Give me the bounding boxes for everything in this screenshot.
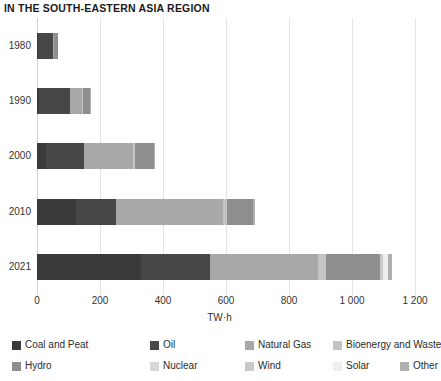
legend-item-bioenergy-and-waste[interactable]: Bioenergy and Waste (333, 340, 441, 350)
x-axis-tick-0: 0 (34, 295, 40, 306)
bar-segment-hydro[interactable] (83, 88, 90, 114)
bar-segment-oil[interactable] (39, 88, 70, 114)
legend-label: Solar (346, 361, 369, 371)
bar-segment-oil[interactable] (46, 143, 84, 169)
legend-label: Coal and Peat (25, 340, 88, 350)
legend-item-hydro[interactable]: Hydro (12, 361, 52, 371)
bar-segment-coal-and-peat[interactable] (37, 254, 141, 280)
legend-item-coal-and-peat[interactable]: Coal and Peat (12, 340, 88, 350)
bar-row[interactable]: 1990 (0, 73, 439, 128)
legend-label: Natural Gas (258, 340, 311, 350)
bar-row[interactable]: 2021 (0, 240, 439, 295)
bar-segment-oil[interactable] (38, 33, 53, 59)
x-axis-ticks: 02004006008001 0001 200 (0, 295, 439, 309)
bar-segment-coal-and-peat[interactable] (37, 143, 46, 169)
x-axis-tick-600: 600 (218, 295, 235, 306)
x-axis-label: TW·h (0, 312, 439, 323)
y-axis-tick-2010: 2010 (0, 207, 31, 217)
y-axis-tick-2021: 2021 (0, 262, 31, 272)
legend-label: Oil (163, 340, 175, 350)
stacked-bar[interactable] (37, 143, 154, 169)
x-axis-tick-400: 400 (155, 295, 172, 306)
bar-segment-hydro[interactable] (54, 33, 58, 59)
bar-segment-natural-gas[interactable] (84, 143, 134, 169)
x-axis-tick-200: 200 (92, 295, 109, 306)
bar-row[interactable]: 2000 (0, 129, 439, 184)
x-axis-tick-1200: 1 200 (402, 295, 427, 306)
chart-legend: Coal and PeatOilNatural GasBioenergy and… (0, 338, 439, 381)
legend-item-solar[interactable]: Solar (333, 361, 369, 371)
legend-swatch-icon (245, 362, 254, 371)
bar-segment-hydro[interactable] (135, 143, 153, 169)
bar-segment-other[interactable] (253, 199, 255, 225)
legend-label: Hydro (25, 361, 52, 371)
legend-swatch-icon (12, 341, 21, 350)
chart-title: IN THE SOUTH-EASTERN ASIA REGION (4, 2, 210, 14)
legend-label: Other (413, 361, 438, 371)
legend-swatch-icon (333, 362, 342, 371)
bar-segment-bioenergy-and-waste[interactable] (318, 254, 326, 280)
y-axis-tick-1980: 1980 (0, 41, 31, 51)
stacked-bar[interactable] (37, 33, 58, 59)
legend-swatch-icon (12, 362, 21, 371)
legend-swatch-icon (333, 341, 342, 350)
legend-swatch-icon (150, 362, 159, 371)
legend-item-wind[interactable]: Wind (245, 361, 281, 371)
stacked-bar[interactable] (37, 254, 392, 280)
bar-segment-natural-gas[interactable] (210, 254, 319, 280)
bar-segment-natural-gas[interactable] (116, 199, 223, 225)
bar-segment-coal-and-peat[interactable] (37, 199, 76, 225)
x-axis-tick-1000: 1 000 (339, 295, 364, 306)
legend-swatch-icon (150, 341, 159, 350)
bar-segment-other[interactable] (154, 143, 155, 169)
bar-segment-hydro[interactable] (227, 199, 253, 225)
bar-row[interactable]: 2010 (0, 184, 439, 239)
bar-segment-natural-gas[interactable] (70, 88, 82, 114)
y-axis-tick-2000: 2000 (0, 151, 31, 161)
stacked-bar[interactable] (37, 199, 255, 225)
bar-segment-hydro[interactable] (326, 254, 380, 280)
legend-label: Bioenergy and Waste (346, 340, 441, 350)
bar-segment-oil[interactable] (141, 254, 210, 280)
plot-area: 19801990200020102021 (0, 18, 439, 295)
legend-label: Wind (258, 361, 281, 371)
y-axis-tick-1990: 1990 (0, 96, 31, 106)
legend-item-other[interactable]: Other (400, 361, 438, 371)
bar-segment-other[interactable] (388, 254, 392, 280)
stacked-bar[interactable] (37, 88, 90, 114)
legend-swatch-icon (400, 362, 409, 371)
legend-swatch-icon (245, 341, 254, 350)
legend-item-natural-gas[interactable]: Natural Gas (245, 340, 311, 350)
bar-segment-oil[interactable] (76, 199, 115, 225)
bar-series-container: 19801990200020102021 (0, 18, 439, 295)
legend-label: Nuclear (163, 361, 197, 371)
legend-item-oil[interactable]: Oil (150, 340, 175, 350)
bar-row[interactable]: 1980 (0, 18, 439, 73)
x-axis-tick-800: 800 (281, 295, 298, 306)
legend-item-nuclear[interactable]: Nuclear (150, 361, 197, 371)
